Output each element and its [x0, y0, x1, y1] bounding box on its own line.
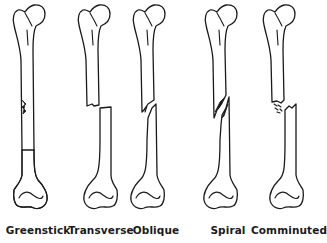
label-comminuted: Comminuted	[251, 224, 327, 236]
label-transverse: Transverse	[68, 224, 134, 236]
femur-oblique	[131, 5, 165, 209]
femur-greenstick	[13, 5, 47, 209]
femur-transverse	[78, 5, 117, 209]
femur-spiral	[204, 5, 238, 209]
label-oblique: Oblique	[133, 224, 179, 236]
label-greenstick: Greenstick	[6, 224, 71, 236]
label-spiral: Spiral	[210, 224, 245, 236]
femur-comminuted	[263, 5, 303, 209]
